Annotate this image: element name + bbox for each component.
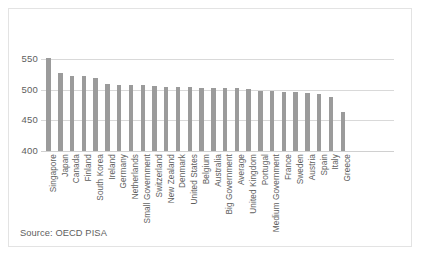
x-axis-label-slot: Big Government (220, 152, 232, 230)
x-axis-label-slot: Average (231, 152, 243, 230)
bar (329, 97, 333, 151)
y-axis: 400450500550 (8, 59, 38, 151)
x-axis-label-slot: Netherlands (125, 152, 137, 230)
x-axis-label-slot: United Kingdom (243, 152, 255, 230)
bar-slot (325, 59, 337, 151)
bar-slot (220, 59, 232, 151)
bar (317, 94, 321, 151)
bar (235, 88, 239, 151)
x-axis-label-slot: Canada (67, 152, 79, 230)
source-note: Source: OECD PISA (20, 228, 107, 239)
plot-area (41, 59, 394, 151)
bar (223, 88, 227, 151)
bar (93, 78, 97, 151)
bar (117, 85, 121, 151)
bar-slot (67, 59, 79, 151)
y-axis-tick-400: 400 (12, 146, 38, 156)
bar-slot (102, 59, 114, 151)
x-axis-tick-label: Greece (343, 154, 352, 181)
x-axis-label-slot: Medium Government (267, 152, 279, 230)
bar-slot (149, 59, 161, 151)
bar-slot (255, 59, 267, 151)
x-axis-label-slot: South Korea (90, 152, 102, 230)
bar-slot (231, 59, 243, 151)
x-axis-label-slot: Greece (337, 152, 349, 230)
x-axis-label-slot: Australia (208, 152, 220, 230)
x-axis-label-slot: Denmark (172, 152, 184, 230)
bar (58, 73, 62, 152)
bar-slot (290, 59, 302, 151)
bar-slot (137, 59, 149, 151)
bar (105, 84, 109, 151)
bar-slot (267, 59, 279, 151)
bar-slot (161, 59, 173, 151)
bar-slot (278, 59, 290, 151)
bar-slot (78, 59, 90, 151)
bar-slot (243, 59, 255, 151)
bar (305, 93, 309, 151)
x-axis-label-slot: United States (184, 152, 196, 230)
x-axis-label-slot: Sweden (290, 152, 302, 230)
bar (199, 88, 203, 151)
bar (129, 85, 133, 151)
bar-slot (302, 59, 314, 151)
x-axis-label-slot: Singapore (43, 152, 55, 230)
bar-slot (337, 59, 349, 151)
bar (282, 92, 286, 151)
bar (141, 85, 145, 151)
bar (341, 112, 345, 151)
bar (246, 89, 250, 151)
x-axis-label-slot: Small Government (137, 152, 149, 230)
x-axis-label-slot: Finland (78, 152, 90, 230)
bar-slot (114, 59, 126, 151)
bar-slot (125, 59, 137, 151)
bar (46, 58, 50, 151)
bar-slot (184, 59, 196, 151)
bar (70, 76, 74, 151)
bar-slot (55, 59, 67, 151)
x-axis-label-slot: Italy (325, 152, 337, 230)
bar (258, 91, 262, 151)
x-axis-label-slot: Switzerland (149, 152, 161, 230)
y-axis-tick-500: 500 (12, 85, 38, 95)
bar (188, 87, 192, 151)
bar-slot (196, 59, 208, 151)
bar (164, 87, 168, 151)
bar (176, 87, 180, 151)
x-axis-label-slot: Spain (314, 152, 326, 230)
bar-slot (314, 59, 326, 151)
x-axis-label-slot: France (278, 152, 290, 230)
bar (270, 91, 274, 151)
bar-slot (43, 59, 55, 151)
bar-slot (172, 59, 184, 151)
x-axis-label-slot: Ireland (102, 152, 114, 230)
y-axis-tick-550: 550 (12, 54, 38, 64)
x-axis-label-slot: Portugal (255, 152, 267, 230)
x-axis-label-slot: New Zealand (161, 152, 173, 230)
bar (293, 92, 297, 151)
x-axis-labels: SingaporeJapanCanadaFinlandSouth KoreaIr… (41, 152, 394, 230)
bar (152, 86, 156, 151)
bar (82, 76, 86, 151)
bar-slot (208, 59, 220, 151)
bar (211, 88, 215, 151)
bar-slot (90, 59, 102, 151)
x-axis-label-slot: Austria (302, 152, 314, 230)
y-axis-tick-450: 450 (12, 115, 38, 125)
x-axis-label-slot: Germany (114, 152, 126, 230)
x-axis-label-slot: Belgium (196, 152, 208, 230)
x-axis-label-slot: Japan (55, 152, 67, 230)
